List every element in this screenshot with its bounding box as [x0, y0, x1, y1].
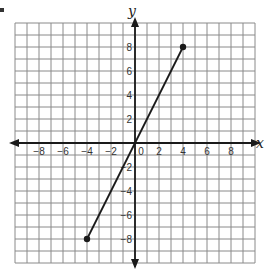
y-tick-label: 6	[126, 66, 132, 77]
coordinate-plane: −8−6−4−2024688642−2−4−6−8 x y	[0, 0, 268, 275]
x-tick-label: −8	[33, 146, 45, 157]
x-tick-label: −4	[81, 146, 93, 157]
x-tick-label: −6	[57, 146, 69, 157]
x-tick-label: −2	[105, 146, 117, 157]
y-tick-label: −4	[121, 186, 133, 197]
x-tick-label: 4	[180, 146, 186, 157]
x-tick-label: 6	[204, 146, 210, 157]
y-tick-label: −6	[121, 210, 133, 221]
x-axis-label: x	[256, 135, 264, 151]
x-axis-arrow-left-icon	[9, 139, 19, 147]
y-tick-label: 8	[126, 42, 132, 53]
y-tick-label: −8	[121, 234, 133, 245]
x-tick-label: 0	[138, 146, 144, 157]
y-tick-label: 4	[126, 90, 132, 101]
y-axis-label: y	[127, 3, 137, 19]
y-tick-label: 2	[126, 114, 132, 125]
endpoint-dot	[84, 236, 90, 242]
x-tick-label: 2	[156, 146, 162, 157]
x-tick-label: 8	[228, 146, 234, 157]
y-axis-arrow-down-icon	[131, 259, 139, 269]
endpoint-dot	[180, 44, 186, 50]
